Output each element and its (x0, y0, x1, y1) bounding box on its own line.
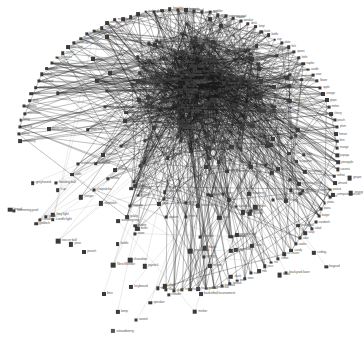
graph-edge-layer (0, 0, 363, 347)
network-graph-canvas: strawberrygalaxycapacitystringmushroomba… (0, 0, 363, 347)
